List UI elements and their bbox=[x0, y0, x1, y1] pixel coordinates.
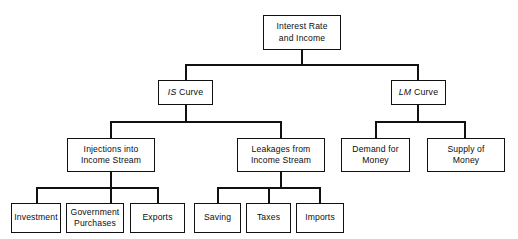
node-label-demand-for-money: Demand for Money bbox=[350, 144, 400, 167]
node-label-exports: Exports bbox=[140, 212, 174, 224]
node-government-purchases[interactable]: Government Purchases bbox=[66, 203, 124, 233]
connector-bus-to-government-purchases bbox=[110, 187, 112, 203]
node-taxes[interactable]: Taxes bbox=[246, 203, 291, 233]
node-label-lm-curve-italic: LM bbox=[399, 87, 412, 97]
connector-bus-to-leakages bbox=[280, 121, 282, 138]
connector-lm-curve-bus bbox=[375, 121, 466, 123]
node-label-lm-curve: LM Curve bbox=[397, 87, 440, 99]
connector-bus-to-taxes bbox=[268, 187, 270, 203]
node-lm-curve[interactable]: LM Curve bbox=[391, 80, 446, 105]
node-is-curve[interactable]: IS Curve bbox=[158, 80, 213, 105]
connector-injections-bus bbox=[36, 187, 159, 189]
connector-bus-to-demand-money bbox=[375, 121, 377, 138]
connector-lm-curve-down bbox=[417, 105, 419, 122]
node-investment[interactable]: Investment bbox=[11, 203, 61, 233]
node-label-interest-rate-and-income: Interest Rate and Income bbox=[274, 21, 329, 44]
node-label-taxes: Taxes bbox=[255, 212, 282, 224]
connector-bus-to-exports bbox=[157, 187, 159, 203]
node-label-is-curve: IS Curve bbox=[166, 87, 205, 99]
node-exports[interactable]: Exports bbox=[130, 203, 185, 233]
connector-root-bus bbox=[185, 64, 419, 66]
connector-bus-to-injections bbox=[110, 121, 112, 138]
diagram-canvas: Interest Rate and Income IS Curve LM Cur… bbox=[0, 0, 518, 239]
connector-bus-to-imports bbox=[319, 187, 321, 203]
node-saving[interactable]: Saving bbox=[194, 203, 241, 233]
node-label-is-curve-rest: Curve bbox=[176, 87, 203, 97]
node-label-investment: Investment bbox=[12, 212, 60, 224]
connector-leakages-down bbox=[280, 172, 282, 188]
connector-bus-to-investment bbox=[36, 187, 38, 203]
connector-is-curve-bus bbox=[110, 121, 282, 123]
node-label-government-purchases: Government Purchases bbox=[69, 207, 122, 230]
connector-injections-down bbox=[110, 172, 112, 188]
node-label-lm-curve-rest: Curve bbox=[411, 87, 438, 97]
node-label-supply-of-money: Supply of Money bbox=[445, 144, 486, 167]
node-injections-into-income-stream[interactable]: Injections into Income Stream bbox=[67, 138, 155, 172]
connector-bus-to-is-curve bbox=[185, 64, 187, 80]
connector-bus-to-saving bbox=[217, 187, 219, 203]
node-label-saving: Saving bbox=[202, 212, 233, 224]
node-leakages-from-income-stream[interactable]: Leakages from Income Stream bbox=[237, 138, 325, 172]
node-label-imports: Imports bbox=[303, 212, 337, 224]
node-demand-for-money[interactable]: Demand for Money bbox=[341, 138, 410, 172]
node-label-leakages-from-income-stream: Leakages from Income Stream bbox=[249, 144, 313, 167]
connector-bus-to-lm-curve bbox=[417, 64, 419, 80]
node-interest-rate-and-income[interactable]: Interest Rate and Income bbox=[263, 15, 341, 50]
connector-bus-to-supply-money bbox=[464, 121, 466, 138]
connector-is-curve-down bbox=[185, 105, 187, 122]
node-imports[interactable]: Imports bbox=[296, 203, 344, 233]
node-label-injections-into-income-stream: Injections into Income Stream bbox=[79, 144, 143, 167]
node-supply-of-money[interactable]: Supply of Money bbox=[427, 138, 505, 172]
